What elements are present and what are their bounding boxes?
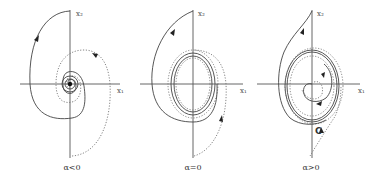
solid-trajectory: [30, 11, 85, 119]
direction-arrow-icon: [170, 29, 175, 36]
x2-axis-label: x₂: [198, 11, 205, 18]
panel-alpha-positive: [257, 10, 360, 158]
hopf-bifurcation-figure: x₂ x₁ α<0 x₂ x₁ α=0 x₂ x₁ C α>0: [0, 0, 380, 178]
limit-cycle-label: C: [315, 126, 322, 136]
dotted-trajectory: [56, 50, 110, 156]
panel-alpha-zero: [140, 10, 243, 158]
direction-arrow-icon: [219, 115, 223, 122]
panel-alpha-negative: [20, 10, 120, 158]
dotted-trajectory: [193, 50, 226, 156]
x1-axis-label: x₁: [240, 88, 247, 95]
inner-spiral-trajectory: [303, 64, 331, 101]
dotted-trajectory: [310, 86, 341, 156]
x2-axis-label: x₂: [317, 11, 324, 18]
x2-axis-label: x₂: [76, 11, 83, 18]
equilibrium-point: [68, 82, 72, 86]
phase-portraits-canvas: [0, 0, 380, 178]
direction-arrow-icon: [300, 28, 304, 35]
panel-caption: α<0: [63, 164, 80, 172]
panel-caption: α=0: [184, 164, 201, 172]
panel-caption: α>0: [302, 164, 319, 172]
direction-arrow-icon: [321, 72, 325, 78]
direction-arrow-icon: [34, 35, 39, 42]
x1-axis-label: x₁: [358, 88, 365, 95]
solid-trajectory: [279, 11, 326, 124]
solid-trajectory: [152, 11, 217, 122]
x1-axis-label: x₁: [117, 88, 124, 95]
